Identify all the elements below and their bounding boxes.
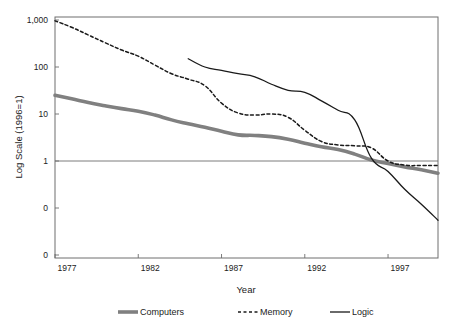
y-tick-label: 1,000 (27, 15, 49, 25)
y-tick-label: 100 (34, 62, 48, 72)
x-tick-label: 1977 (58, 263, 77, 273)
x-axis-ticks: 19771982198719921997 (55, 254, 410, 273)
y-tick-label: 0 (43, 203, 48, 213)
y-tick-label: 1 (43, 156, 48, 166)
chart-svg: 1,00010010100 19771982198719921997 Log S… (0, 0, 457, 334)
y-tick-label: 10 (39, 109, 49, 119)
series-line-logic (188, 59, 438, 220)
legend-label-logic: Logic (352, 307, 374, 317)
x-axis-title: Year (236, 284, 255, 295)
x-tick-label: 1997 (391, 263, 410, 273)
series-line-memory (55, 21, 438, 166)
chart-legend: ComputersMemoryLogic (118, 307, 374, 317)
legend-label-computers: Computers (140, 307, 185, 317)
plot-frame (55, 17, 438, 258)
y-tick-label: 0 (43, 250, 48, 260)
plot-border (55, 17, 438, 258)
legend-label-memory: Memory (260, 307, 293, 317)
chart-container: 1,00010010100 19771982198719921997 Log S… (0, 0, 457, 334)
y-axis-title: Log Scale (1996=1) (13, 95, 24, 178)
series-line-computers (55, 95, 438, 173)
x-tick-label: 1992 (307, 263, 326, 273)
x-tick-label: 1982 (141, 263, 160, 273)
x-tick-label: 1987 (224, 263, 243, 273)
data-series-layer (55, 21, 438, 220)
y-axis-ticks: 1,00010010100 (27, 15, 59, 260)
